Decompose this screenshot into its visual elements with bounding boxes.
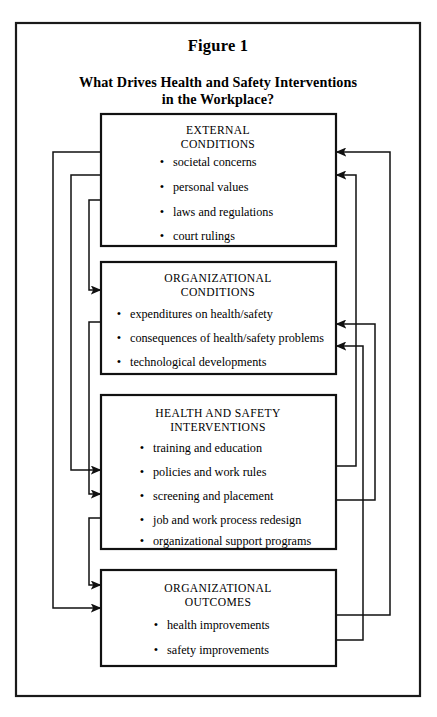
node-organizational-conditions-item-0: expenditures on health/safety xyxy=(130,307,274,321)
bullet-icon: • xyxy=(160,205,164,219)
node-organizational-outcomes-item-0: health improvements xyxy=(167,618,270,632)
figure-label: Figure 1 xyxy=(188,36,248,55)
flow-orgconditions-to-interventions xyxy=(89,322,101,494)
node-external-conditions-item-2: laws and regulations xyxy=(173,205,273,219)
bullet-icon: • xyxy=(160,155,164,169)
flow-external-to-orgconditions xyxy=(89,200,101,290)
node-health-and-safety-interventions-item-2: screening and placement xyxy=(153,489,274,503)
node-organizational-conditions-title-line2: CONDITIONS xyxy=(181,286,255,299)
node-external-conditions-title-line1: EXTERNAL xyxy=(186,124,250,137)
bullet-icon: • xyxy=(140,441,144,455)
bullet-icon: • xyxy=(117,355,121,369)
flow-orgconditions-to-outcomes xyxy=(89,518,101,585)
node-organizational-conditions-item-2: technological developments xyxy=(130,355,267,369)
bullet-icon: • xyxy=(154,618,158,632)
bullet-icon: • xyxy=(160,180,164,194)
node-health-and-safety-interventions-item-0: training and education xyxy=(153,441,262,455)
flow-external-to-outcomes xyxy=(53,152,101,608)
node-organizational-outcomes-item-1: safety improvements xyxy=(167,643,269,657)
node-health-and-safety-interventions-title-line2: INTERVENTIONS xyxy=(170,421,266,434)
figure-diagram: Figure 1 What Drives Health and Safety I… xyxy=(0,0,437,717)
bullet-icon: • xyxy=(117,307,121,321)
node-health-and-safety-interventions-item-1: policies and work rules xyxy=(153,465,267,479)
node-health-and-safety-interventions-item-4: organizational support programs xyxy=(153,534,311,548)
figure-title-line1: What Drives Health and Safety Interventi… xyxy=(79,74,358,90)
node-health-and-safety-interventions-title-line1: HEALTH AND SAFETY xyxy=(155,407,281,420)
node-organizational-conditions-title-line1: ORGANIZATIONAL xyxy=(164,272,271,285)
bullet-icon: • xyxy=(160,229,164,243)
figure-title-line2: in the Workplace? xyxy=(162,91,275,107)
bullet-icon: • xyxy=(140,513,144,527)
bullet-icon: • xyxy=(140,465,144,479)
bullet-icon: • xyxy=(140,534,144,548)
bullet-icon: • xyxy=(154,643,158,657)
node-organizational-outcomes-title-line2: OUTCOMES xyxy=(185,596,252,609)
node-external-conditions-title-line2: CONDITIONS xyxy=(181,138,255,151)
flow-outcomes-to-orgconditions xyxy=(336,346,363,640)
node-external-conditions-item-1: personal values xyxy=(173,180,249,194)
figure-container: Figure 1 What Drives Health and Safety I… xyxy=(0,0,437,717)
node-organizational-outcomes-title-line1: ORGANIZATIONAL xyxy=(164,582,271,595)
node-external-conditions-item-0: societal concerns xyxy=(173,155,257,169)
node-health-and-safety-interventions-item-3: job and work process redesign xyxy=(152,513,301,527)
bullet-icon: • xyxy=(117,331,121,345)
node-external-conditions-item-3: court rulings xyxy=(173,229,235,243)
flow-interventions-to-external xyxy=(336,175,356,466)
node-organizational-conditions-item-1: consequences of health/safety problems xyxy=(130,331,324,345)
bullet-icon: • xyxy=(140,489,144,503)
